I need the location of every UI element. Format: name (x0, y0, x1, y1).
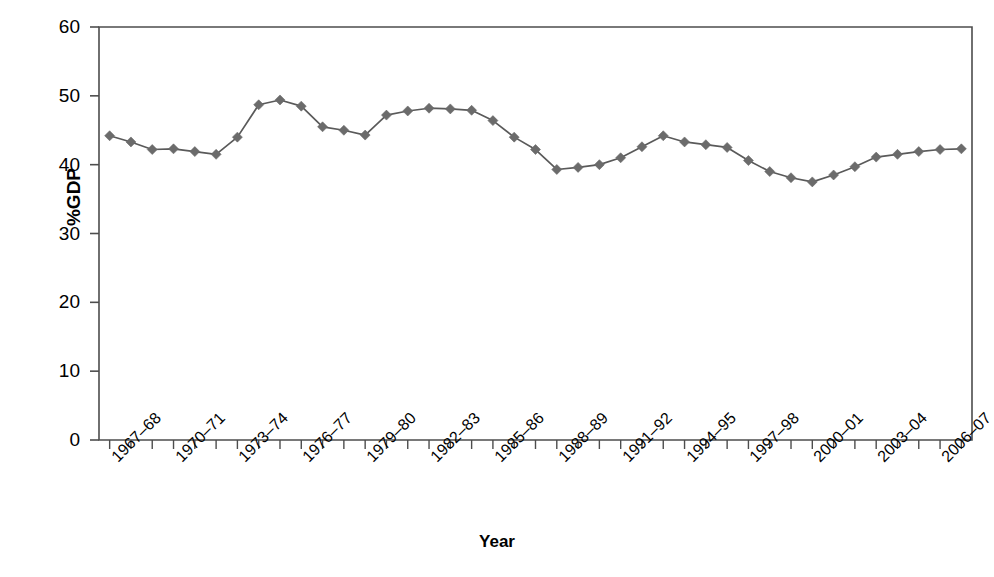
y-axis-tick-label: 60 (32, 17, 80, 36)
data-point-marker (637, 142, 647, 152)
data-point-marker (147, 145, 157, 155)
y-axis-tick-label: 40 (32, 155, 80, 174)
data-point-marker (126, 137, 136, 147)
data-point-marker (573, 162, 583, 172)
data-point-marker (701, 140, 711, 150)
data-point-marker (935, 145, 945, 155)
data-point-marker (871, 152, 881, 162)
plot-frame (99, 27, 972, 440)
data-point-marker (829, 170, 839, 180)
chart-figure: %GDP 0102030405060 1967–681970–711973–74… (0, 0, 994, 577)
y-axis-tick-label: 20 (32, 292, 80, 311)
x-axis-title: Year (0, 532, 994, 552)
data-point-marker (722, 142, 732, 152)
y-axis-tick-label: 0 (32, 430, 80, 449)
y-axis-tick-label: 10 (32, 361, 80, 380)
data-point-marker (892, 149, 902, 159)
data-point-marker (445, 104, 455, 114)
data-point-marker (616, 153, 626, 163)
data-point-marker (658, 131, 668, 141)
line-chart-plot (0, 0, 994, 577)
data-point-marker (594, 160, 604, 170)
y-axis-tick-label: 30 (32, 224, 80, 243)
data-point-marker (105, 131, 115, 141)
data-point-marker (275, 95, 285, 105)
data-point-marker (914, 147, 924, 157)
data-point-marker (169, 144, 179, 154)
data-point-marker (254, 100, 264, 110)
y-axis-tick-label: 50 (32, 86, 80, 105)
data-point-marker (956, 144, 966, 154)
data-point-marker (424, 103, 434, 113)
data-point-marker (190, 147, 200, 157)
data-point-marker (807, 177, 817, 187)
data-point-marker (339, 125, 349, 135)
data-point-marker (786, 173, 796, 183)
data-point-marker (467, 105, 477, 115)
data-point-marker (850, 162, 860, 172)
data-point-marker (743, 156, 753, 166)
data-point-marker (765, 167, 775, 177)
data-point-marker (680, 137, 690, 147)
data-point-marker (403, 106, 413, 116)
